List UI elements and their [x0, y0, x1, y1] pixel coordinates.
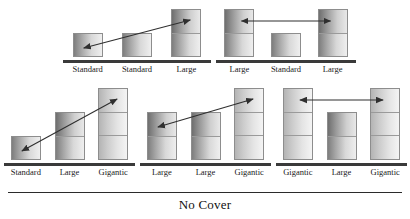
bar-segment	[56, 137, 84, 160]
bar-segment	[284, 136, 312, 159]
bar-large	[55, 112, 85, 160]
bar-large	[224, 9, 254, 57]
chart-panel-bottom-left: StandardLargeGigantic	[4, 93, 135, 180]
bar-segment	[225, 34, 253, 57]
bar-segment	[99, 113, 127, 137]
bar-segment	[284, 89, 312, 113]
category-labels: LargeStandardLarge	[216, 63, 356, 76]
bar-segment	[99, 89, 127, 113]
bar-segment	[123, 34, 151, 56]
category-labels: GiganticLargeGigantic	[276, 166, 407, 179]
bar-large	[171, 9, 201, 57]
bar-segment	[319, 34, 347, 57]
chart-panel-bottom-right: GiganticLargeGigantic	[276, 93, 407, 180]
bar-segment	[371, 89, 399, 113]
bar-segment	[235, 89, 263, 113]
category-labels: StandardStandardLarge	[63, 63, 211, 76]
bar-label-gigantic: Gigantic	[227, 166, 271, 179]
bar-standard	[271, 33, 301, 57]
bar-segment	[225, 10, 253, 34]
bar-label-large: Large	[140, 166, 184, 179]
bar-large	[147, 112, 177, 160]
bar-segment	[56, 113, 84, 137]
bar-label-standard: Standard	[112, 63, 161, 76]
bar-gigantic	[283, 88, 313, 160]
bar-segment	[284, 113, 312, 137]
figure-caption: No Cover	[0, 197, 410, 213]
bar-label-large: Large	[320, 166, 364, 179]
bar-segment	[371, 136, 399, 159]
bar-segment	[99, 136, 127, 159]
bar-label-standard: Standard	[4, 166, 48, 179]
bar-segment	[235, 113, 263, 137]
bar-segment	[12, 137, 40, 159]
bar-segment	[192, 113, 220, 137]
bar-standard	[73, 33, 103, 57]
bar-label-large: Large	[162, 63, 211, 76]
bar-standard	[122, 33, 152, 57]
bar-large	[191, 112, 221, 160]
bar-segment	[272, 34, 300, 56]
bar-segment	[148, 113, 176, 137]
bar-standard	[11, 136, 41, 160]
bar-label-gigantic: Gigantic	[363, 166, 407, 179]
bar-label-large: Large	[48, 166, 92, 179]
category-labels: LargeLargeGigantic	[140, 166, 271, 179]
bar-segment	[172, 34, 200, 57]
bar-segment	[319, 10, 347, 34]
bar-label-gigantic: Gigantic	[91, 166, 135, 179]
category-labels: StandardLargeGigantic	[4, 166, 135, 179]
bar-segment	[74, 34, 102, 56]
bar-large	[327, 112, 357, 160]
bar-gigantic	[98, 88, 128, 160]
bar-label-standard: Standard	[63, 63, 112, 76]
bar-segment	[328, 137, 356, 160]
bar-label-large: Large	[216, 63, 263, 76]
bar-segment	[235, 136, 263, 159]
bar-label-standard: Standard	[263, 63, 310, 76]
figure-no-cover: StandardStandardLarge LargeStandardLarge…	[0, 0, 410, 219]
bar-large	[318, 9, 348, 57]
bar-label-large: Large	[184, 166, 228, 179]
chart-panel-top-left: StandardStandardLarge	[63, 2, 211, 75]
chart-panel-bottom-middle: LargeLargeGigantic	[140, 93, 271, 180]
caption-divider	[8, 192, 402, 193]
bar-segment	[172, 10, 200, 34]
bar-label-large: Large	[309, 63, 356, 76]
chart-panel-top-right: LargeStandardLarge	[216, 2, 356, 75]
bar-label-gigantic: Gigantic	[276, 166, 320, 179]
bar-gigantic	[234, 88, 264, 160]
bar-segment	[371, 113, 399, 137]
bar-gigantic	[370, 88, 400, 160]
bar-segment	[192, 137, 220, 160]
bar-segment	[328, 113, 356, 137]
bar-segment	[148, 137, 176, 160]
